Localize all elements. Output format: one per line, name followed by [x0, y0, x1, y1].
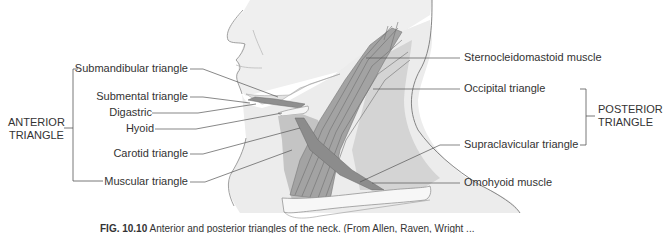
anterior-triangle-group-label: ANTERIOR TRIANGLE [8, 116, 65, 142]
anterior-line1: ANTERIOR [8, 116, 65, 129]
figure-caption: FIG. 10.10 Anterior and posterior triang… [100, 223, 474, 233]
anterior-line2: TRIANGLE [8, 129, 65, 142]
figure-caption-text: Anterior and posterior triangles of the … [149, 223, 474, 233]
label-hyoid: Hyoid [126, 122, 154, 135]
anterior-bracket [64, 69, 103, 181]
label-supraclavicular-triangle: Supraclavicular triangle [464, 138, 578, 151]
label-carotid-triangle: Carotid triangle [113, 147, 188, 160]
label-muscular-triangle: Muscular triangle [104, 175, 188, 188]
label-submandibular-triangle: Submandibular triangle [75, 62, 188, 75]
posterior-line1: POSTERIOR [598, 103, 663, 116]
label-sternocleidomastoid-muscle: Sternocleidomastoid muscle [464, 51, 602, 64]
label-omohyoid-muscle: Omohyoid muscle [464, 176, 552, 189]
label-submental-triangle: Submental triangle [96, 90, 188, 103]
posterior-triangle-group-label: POSTERIOR TRIANGLE [598, 103, 663, 129]
neck-anatomy-illustration [0, 0, 666, 233]
neck-triangles-figure: ANTERIOR TRIANGLE Submandibular triangle… [0, 0, 666, 233]
posterior-bracket [580, 89, 595, 145]
posterior-line2: TRIANGLE [598, 116, 663, 129]
label-digastric: Digastric [109, 106, 152, 119]
figure-number: FIG. 10.10 [100, 223, 147, 233]
label-occipital-triangle: Occipital triangle [464, 82, 545, 95]
